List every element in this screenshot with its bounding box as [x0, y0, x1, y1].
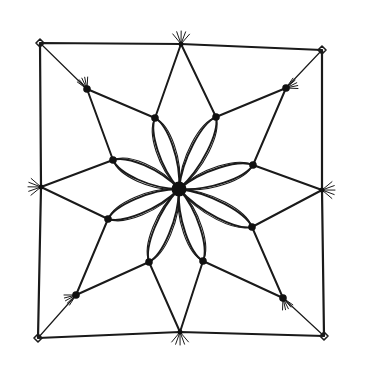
petal — [179, 189, 252, 228]
knot — [248, 223, 256, 231]
star-line — [181, 44, 216, 117]
star-line — [283, 298, 324, 336]
star-line — [253, 165, 322, 190]
star-line — [155, 44, 181, 118]
petal — [108, 189, 179, 221]
mandala-drawing — [0, 0, 366, 365]
knot — [83, 85, 91, 93]
petal — [113, 158, 179, 189]
knot — [145, 258, 153, 266]
star-line — [286, 50, 322, 88]
knot — [199, 257, 207, 265]
star-line — [40, 43, 87, 89]
knot — [72, 291, 80, 299]
knot — [282, 84, 290, 92]
star-line — [149, 262, 180, 332]
knot — [151, 114, 159, 122]
knot — [109, 156, 117, 164]
star-line — [87, 89, 155, 118]
knot — [104, 215, 112, 223]
star-line — [38, 295, 76, 338]
apex-knot — [178, 330, 183, 335]
star-line — [252, 190, 322, 227]
star-line — [87, 89, 113, 160]
star-line — [41, 160, 113, 187]
petal — [179, 117, 216, 189]
star-line — [203, 261, 283, 298]
star-line — [41, 187, 108, 219]
petal — [179, 189, 252, 227]
apex-knot — [179, 42, 184, 47]
star-line — [180, 261, 203, 332]
star-line — [252, 227, 283, 298]
knot — [212, 113, 220, 121]
petal — [147, 189, 179, 262]
apex-knot — [39, 185, 44, 190]
petal — [179, 117, 217, 189]
knot — [249, 161, 257, 169]
knot — [279, 294, 287, 302]
apex-knot — [320, 188, 325, 193]
center-knot — [172, 182, 187, 197]
